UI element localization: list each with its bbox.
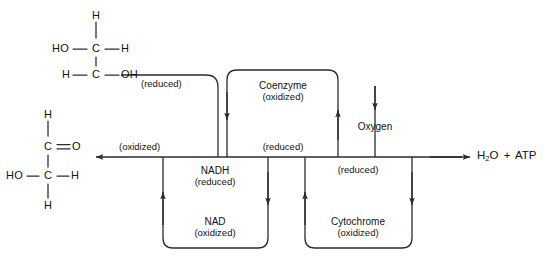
label-coenzyme-oxidized: (oxidized) bbox=[262, 92, 303, 103]
electron-transport-diagram: H HO C H H C OH (reduced) H C O HO C H H… bbox=[0, 0, 548, 263]
label-coenzyme-name: Coenzyme bbox=[259, 80, 307, 91]
label-products: H2O + ATP bbox=[477, 149, 536, 163]
atom2-top-h: H bbox=[44, 108, 52, 120]
label-nad-state: (oxidized) bbox=[194, 228, 235, 239]
atom-h-lower-left: H bbox=[62, 68, 70, 80]
product-water-o: O bbox=[489, 149, 498, 161]
label-nad-name: NAD bbox=[204, 216, 225, 227]
molecule-bonds-bottom bbox=[27, 121, 70, 198]
label-substrate-oxidized: (oxidized) bbox=[119, 142, 160, 153]
atom-h-right: H bbox=[121, 42, 129, 54]
label-nadh-state: (reduced) bbox=[195, 177, 236, 188]
label-cytochrome-name: Cytochrome bbox=[331, 216, 385, 227]
label-nadh-name: NADH bbox=[201, 165, 229, 176]
label-oxygen: Oxygen bbox=[358, 121, 392, 132]
label-cytochrome-state: (oxidized) bbox=[337, 228, 378, 239]
label-coenzyme-reduced: (reduced) bbox=[263, 142, 304, 153]
atom-ho-left: HO bbox=[52, 42, 69, 54]
atom2-bottom-h: H bbox=[44, 199, 52, 211]
atom-c1: C bbox=[92, 42, 100, 54]
atom2-h-right: H bbox=[71, 169, 79, 181]
atom2-c2: C bbox=[44, 169, 52, 181]
atom-oh: OH bbox=[121, 68, 138, 80]
product-atp: ATP bbox=[515, 149, 537, 161]
diagram-canvas bbox=[0, 0, 548, 263]
atom2-c1: C bbox=[44, 140, 52, 152]
atom-c2: C bbox=[92, 68, 100, 80]
atom2-ho: HO bbox=[6, 169, 23, 181]
label-substrate-reduced: (reduced) bbox=[141, 79, 182, 90]
label-cytochrome-reduced: (reduced) bbox=[338, 165, 379, 176]
atom-top-h: H bbox=[92, 9, 100, 21]
product-plus-sign: + bbox=[502, 149, 513, 161]
atom2-o: O bbox=[72, 140, 81, 152]
